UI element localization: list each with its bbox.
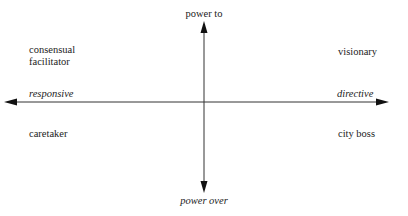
- arrow-down-icon: [201, 181, 208, 193]
- axis-label-power-to: power to: [185, 8, 222, 20]
- vertical-axis: [201, 21, 208, 193]
- quadrant-label-visionary: visionary: [338, 46, 377, 58]
- quadrant-label-facilitator: facilitator: [29, 56, 70, 68]
- axis-label-responsive: responsive: [29, 88, 74, 100]
- axes: [0, 0, 408, 216]
- arrow-up-icon: [201, 21, 208, 33]
- quadrant-label-caretaker: caretaker: [29, 128, 67, 140]
- axis-label-directive: directive: [337, 88, 373, 100]
- arrow-right-icon: [376, 99, 389, 106]
- axis-label-power-over: power over: [180, 195, 228, 207]
- quadrant-label-city-boss: city boss: [338, 128, 375, 140]
- arrow-left-icon: [4, 99, 17, 106]
- quadrant-label-consensual: consensual: [29, 44, 75, 56]
